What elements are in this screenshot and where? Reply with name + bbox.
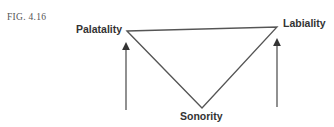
palatality-label: Palatality — [76, 23, 122, 35]
triangle — [127, 27, 277, 108]
sonority-label: Sonority — [180, 110, 223, 122]
labiality-label: Labiality — [283, 17, 326, 29]
